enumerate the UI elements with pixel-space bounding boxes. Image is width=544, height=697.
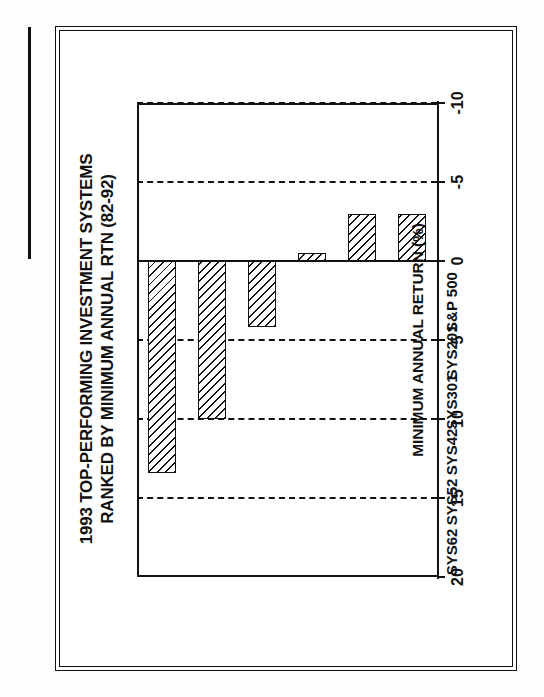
bar — [348, 213, 376, 260]
gridline — [137, 418, 437, 420]
figure-frame: 1993 TOP-PERFORMING INVESTMENT SYSTEMS R… — [55, 26, 517, 671]
bar — [248, 261, 276, 327]
bar — [198, 261, 226, 419]
category-axis: SYS62SYS52SYS42SYS301SYS201S&P 500 — [443, 103, 465, 577]
bar — [148, 261, 176, 473]
gridline — [137, 339, 437, 341]
chart-title: 1993 TOP-PERFORMING INVESTMENT SYSTEMS R… — [77, 49, 118, 649]
page-rule — [28, 27, 31, 259]
category-label: S&P 500 — [443, 247, 460, 357]
chart-title-line-2: RANKED BY MINIMUM ANNUAL RTN (82-92) — [98, 49, 119, 649]
zero-line — [137, 260, 437, 262]
chart: 1993 TOP-PERFORMING INVESTMENT SYSTEMS R… — [71, 49, 501, 649]
value-axis-title: MINIMUM ANNUAL RETURN (%) — [409, 103, 427, 577]
gridline — [137, 181, 437, 183]
figure-page: FIGURE 17 1993 TOP-PERFORMING INVESTMENT… — [0, 0, 544, 697]
gridline — [137, 497, 437, 499]
bar — [298, 253, 326, 261]
chart-title-line-1: 1993 TOP-PERFORMING INVESTMENT SYSTEMS — [77, 49, 98, 649]
plot-area: 20151050-5-10 — [137, 103, 437, 577]
gridline — [137, 102, 437, 104]
